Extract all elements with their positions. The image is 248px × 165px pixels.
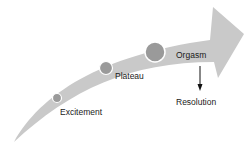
orgasm-label: Orgasm [176,50,206,60]
plateau-marker [100,62,113,75]
excitement-marker [53,94,62,103]
excitement-label: Excitement [60,107,103,117]
resolution-label: Resolution [176,97,216,107]
orgasm-marker [145,42,165,62]
down-arrow-icon [198,66,203,91]
sexual-response-cycle-diagram: Excitement Plateau Orgasm Resolution [0,0,248,165]
plateau-label: Plateau [115,71,144,81]
